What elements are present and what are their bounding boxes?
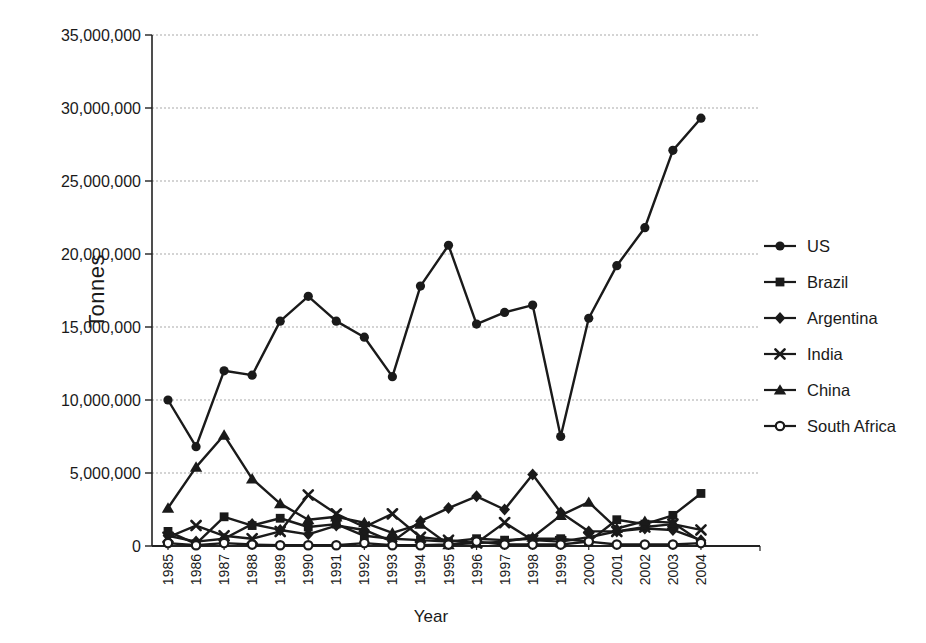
x-tick-label: 1995	[441, 554, 457, 585]
x-tick-label: 1990	[300, 554, 316, 585]
x-tick-label: 1987	[216, 554, 232, 585]
legend-item-us: US	[762, 228, 896, 264]
y-tick-label: 35,000,000	[61, 27, 141, 44]
x-tick-label: 2001	[609, 554, 625, 585]
y-tick-label: 30,000,000	[61, 100, 141, 117]
x-tick-label: 2000	[581, 554, 597, 585]
y-axis-title: Tonnes	[84, 254, 110, 328]
x-tick-label: 1993	[384, 554, 400, 585]
legend-label-us: US	[807, 237, 830, 256]
legend: USBrazilArgentinaIndiaChinaSouth Africa	[762, 228, 896, 444]
x-tick-label: 1989	[272, 554, 288, 585]
legend-item-brazil: Brazil	[762, 264, 896, 300]
y-tick-label: 10,000,000	[61, 392, 141, 409]
x-tick-label: 1988	[244, 554, 260, 585]
y-tick-label: 5,000,000	[70, 465, 141, 482]
legend-label-south-africa: South Africa	[807, 417, 896, 436]
x-tick-label: 2004	[693, 554, 709, 585]
x-tick-label: 1986	[188, 554, 204, 585]
legend-item-south-africa: South Africa	[762, 408, 896, 444]
series-us	[163, 114, 705, 452]
legend-marker-diamond-icon	[762, 310, 798, 326]
x-tick-label: 2002	[637, 554, 653, 585]
figure: 05,000,00010,000,00015,000,00020,000,000…	[0, 0, 926, 643]
legend-item-argentina: Argentina	[762, 300, 896, 336]
x-tick-label: 1996	[469, 554, 485, 585]
x-tick-label: 1992	[356, 554, 372, 585]
x-axis-tick-labels: 1985198619871988198919901991199219931994…	[160, 554, 709, 585]
x-tick-label: 1999	[553, 554, 569, 585]
x-tick-label: 1994	[412, 554, 428, 585]
legend-marker-circle-open-icon	[762, 418, 798, 434]
legend-label-china: China	[807, 381, 850, 400]
series-india	[163, 490, 705, 547]
legend-marker-circle-icon	[762, 238, 798, 254]
legend-label-brazil: Brazil	[807, 273, 848, 292]
legend-marker-x-icon	[762, 346, 798, 362]
legend-label-india: India	[807, 345, 843, 364]
legend-item-india: India	[762, 336, 896, 372]
x-tick-label: 1985	[160, 554, 176, 585]
legend-item-china: China	[762, 372, 896, 408]
legend-marker-triangle-icon	[762, 382, 798, 398]
x-axis-title: Year	[414, 607, 448, 627]
x-tick-label: 1997	[497, 554, 513, 585]
axes	[145, 35, 760, 551]
x-tick-label: 2003	[665, 554, 681, 585]
legend-marker-square-icon	[762, 274, 798, 290]
legend-label-argentina: Argentina	[807, 309, 878, 328]
gridlines	[152, 35, 760, 473]
x-tick-label: 1991	[328, 554, 344, 585]
y-tick-label: 25,000,000	[61, 173, 141, 190]
x-tick-label: 1998	[525, 554, 541, 585]
y-tick-label: 0	[132, 538, 141, 555]
